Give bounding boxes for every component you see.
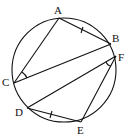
segment-cb: [14, 44, 111, 83]
segment-ac: [14, 18, 59, 83]
angle-arc-acb: [22, 72, 27, 78]
angle-arc-dfe: [106, 62, 111, 66]
segment-de: [27, 108, 81, 122]
label-e: E: [77, 124, 84, 136]
label-b: B: [112, 32, 119, 44]
label-a: A: [54, 4, 62, 16]
label-d: D: [15, 106, 23, 118]
circle: [12, 18, 116, 122]
label-f: F: [118, 51, 124, 63]
label-c: C: [2, 76, 9, 88]
geometry-diagram: A B F C D E: [0, 0, 127, 137]
